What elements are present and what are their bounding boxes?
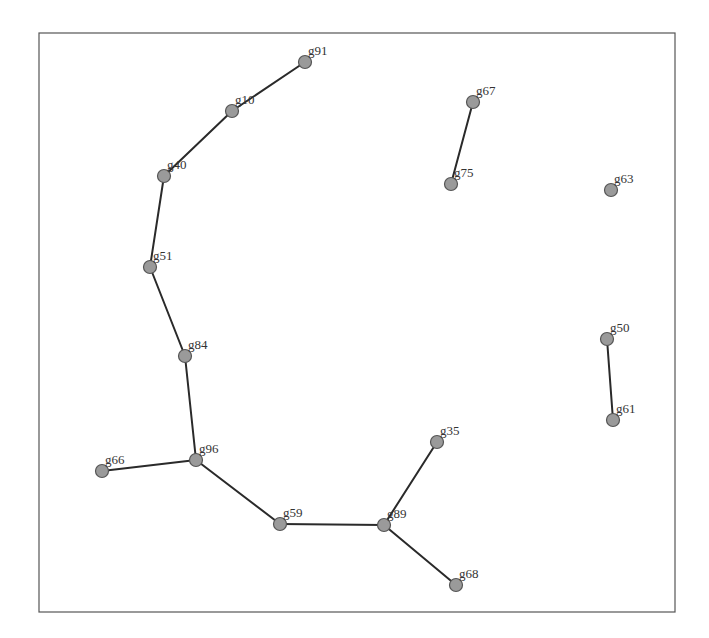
node-label-g61: g61 <box>616 401 636 416</box>
node-label-g91: g91 <box>308 43 328 58</box>
node-label-g51: g51 <box>153 248 173 263</box>
node-label-g10: g10 <box>235 92 255 107</box>
node-label-g84: g84 <box>188 337 208 352</box>
node-label-g68: g68 <box>459 566 479 581</box>
node-label-g40: g40 <box>167 157 187 172</box>
node-label-g67: g67 <box>476 83 496 98</box>
node-label-g59: g59 <box>283 505 303 520</box>
node-label-g63: g63 <box>614 171 634 186</box>
node-label-g66: g66 <box>105 452 125 467</box>
node-label-g75: g75 <box>454 165 474 180</box>
node-label-g96: g96 <box>199 441 219 456</box>
network-graph: g91g10g40g51g84g96g66g59g89g35g68g67g75g… <box>0 0 709 638</box>
node-label-g35: g35 <box>440 423 460 438</box>
node-label-g89: g89 <box>387 506 407 521</box>
node-label-g50: g50 <box>610 320 630 335</box>
edge-g59-g89 <box>280 524 384 525</box>
